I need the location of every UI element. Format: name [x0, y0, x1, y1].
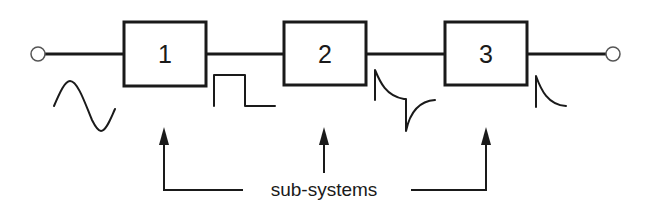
decaying-spike-icon: [536, 76, 566, 107]
arrowhead-icon: [319, 127, 329, 145]
block-1: 1: [124, 22, 206, 86]
square-pulse-icon: [214, 75, 275, 106]
block-3: 3: [445, 22, 527, 85]
input-terminal-icon: [31, 47, 45, 61]
arrow-to-block-2: [319, 127, 329, 173]
sine-wave-icon: [54, 81, 115, 131]
block-1-label: 1: [158, 40, 172, 68]
output-terminal-icon: [606, 47, 620, 61]
arrowhead-icon: [159, 127, 169, 145]
sub-systems-caption: sub-systems: [271, 179, 378, 200]
arrow-to-block-3: [411, 127, 491, 190]
differentiated-spikes-icon: [375, 70, 435, 131]
block-diagram: 1 2 3 sub-systems: [0, 0, 647, 208]
block-3-label: 3: [479, 40, 493, 68]
arrow-to-block-1: [159, 127, 243, 190]
block-2: 2: [284, 22, 366, 85]
block-2-label: 2: [318, 40, 332, 68]
arrowhead-icon: [481, 127, 491, 145]
